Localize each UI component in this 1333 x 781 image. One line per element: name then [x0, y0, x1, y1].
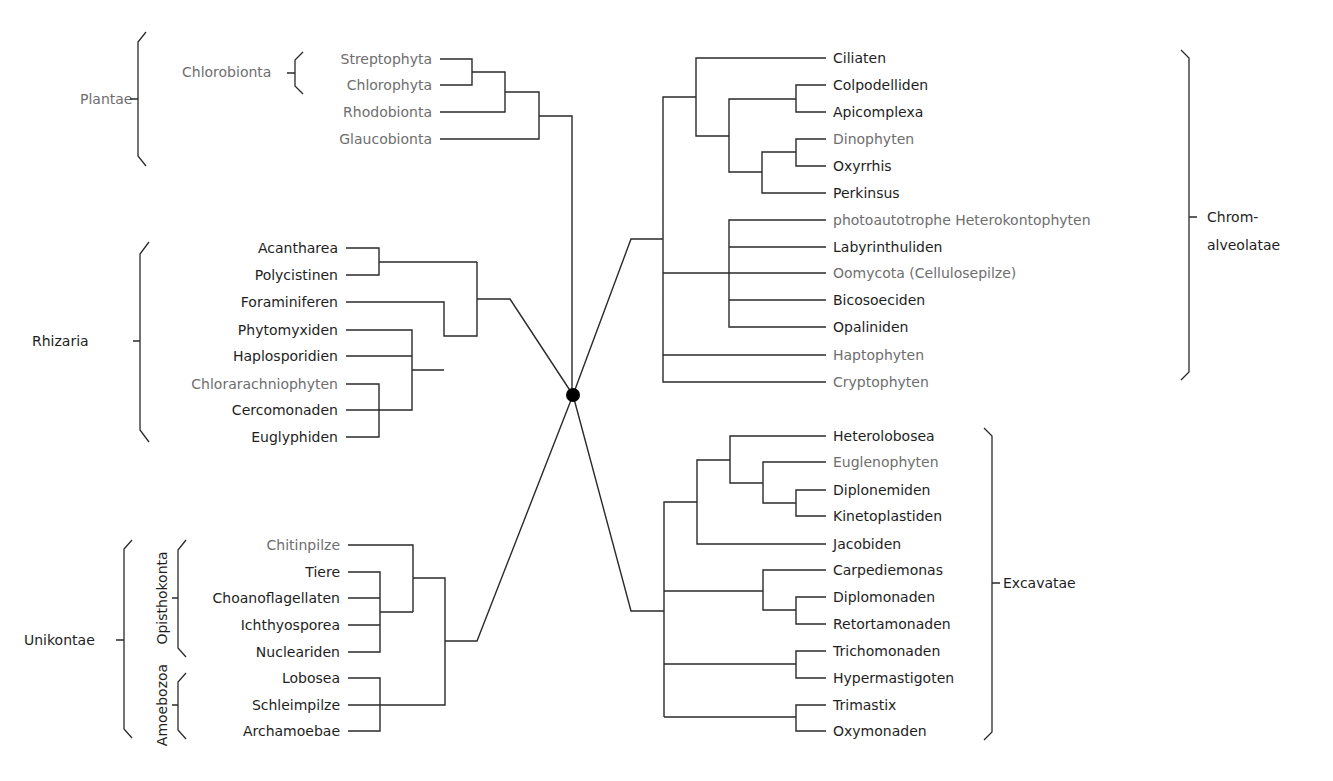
group-label-chromalveolatae-line2: alveolatae	[1207, 237, 1280, 253]
taxon-retortamonaden: Retortamonaden	[833, 616, 951, 632]
taxon-haplosporidien: Haplosporidien	[233, 348, 338, 364]
taxon-cercomonaden: Cercomonaden	[232, 402, 338, 418]
taxon-chlorophyta: Chlorophyta	[347, 77, 432, 93]
clade-rhizaria: Rhizaria Acantharea Polycistinen Foramin…	[32, 240, 573, 445]
taxon-ichthyosporea: Ichthyosporea	[241, 617, 340, 633]
taxon-heterolobosea: Heterolobosea	[833, 428, 935, 444]
taxon-schleimpilze: Schleimpilze	[252, 697, 340, 713]
taxon-polycistinen: Polycistinen	[255, 267, 338, 283]
taxon-ciliaten: Ciliaten	[833, 50, 886, 66]
taxon-jacobiden: Jacobiden	[832, 536, 901, 552]
taxon-streptophyta: Streptophyta	[341, 51, 433, 67]
taxon-dinophyten: Dinophyten	[833, 131, 914, 147]
group-label-plantae: Plantae	[80, 91, 132, 107]
taxon-perkinsus: Perkinsus	[833, 185, 900, 201]
brace-rhizaria	[133, 242, 149, 442]
clade-chromalveolatae: Ciliaten Colpodelliden Apicomplexa Dinop…	[573, 50, 1280, 395]
brace-plantae	[130, 32, 146, 166]
taxon-diplonemiden: Diplonemiden	[833, 482, 930, 498]
branches-chromalveolatae	[573, 58, 826, 395]
brace-unikontae	[116, 540, 132, 738]
taxon-nucleariden: Nucleariden	[256, 644, 340, 660]
group-label-amoebozoa: Amoebozoa	[154, 664, 170, 746]
group-label-chromalveolatae-line1: Chrom-	[1207, 209, 1258, 225]
brace-amoebozoa	[172, 673, 186, 739]
taxon-glaucobionta: Glaucobionta	[339, 131, 432, 147]
phylogenetic-tree: Plantae Chlorobionta Streptophyta Chloro…	[0, 0, 1333, 781]
taxon-opaliniden: Opaliniden	[833, 319, 908, 335]
taxon-oxymonaden: Oxymonaden	[833, 723, 927, 739]
root-node	[566, 388, 580, 402]
taxon-kinetoplastiden: Kinetoplastiden	[833, 508, 942, 524]
taxon-phytomyxiden: Phytomyxiden	[238, 322, 338, 338]
taxon-euglenophyten: Euglenophyten	[833, 454, 939, 470]
group-label-opisthokonta: Opisthokonta	[154, 551, 170, 644]
taxon-trichomonaden: Trichomonaden	[832, 643, 940, 659]
taxon-choanoflagellaten: Choanoflagellaten	[213, 590, 340, 606]
taxon-oomycota: Oomycota (Cellulosepilze)	[833, 265, 1016, 281]
branches-plantae	[440, 59, 572, 395]
taxon-carpediemonas: Carpediemonas	[833, 562, 943, 578]
branches-unikontae	[348, 395, 573, 731]
taxon-colpodelliden: Colpodelliden	[833, 77, 928, 93]
branches-excavatae	[573, 395, 826, 731]
taxon-apicomplexa: Apicomplexa	[833, 104, 923, 120]
brace-opisthokonta	[172, 540, 186, 657]
taxon-trimastix: Trimastix	[832, 697, 896, 713]
taxon-rhodobionta: Rhodobionta	[343, 104, 432, 120]
group-label-chlorobionta: Chlorobionta	[182, 64, 271, 80]
taxon-foraminiferen: Foraminiferen	[241, 294, 338, 310]
taxon-bicosoeciden: Bicosoeciden	[833, 292, 925, 308]
taxon-labyrinthuliden: Labyrinthuliden	[833, 239, 942, 255]
taxon-chlorarachniophyten: Chlorarachniophyten	[191, 376, 338, 392]
group-label-unikontae: Unikontae	[24, 632, 95, 648]
taxon-acantharea: Acantharea	[258, 240, 338, 256]
clade-plantae: Plantae Chlorobionta Streptophyta Chloro…	[80, 32, 572, 395]
taxon-archamoebae: Archamoebae	[243, 723, 340, 739]
taxon-cryptophyten: Cryptophyten	[833, 374, 929, 390]
taxon-tiere: Tiere	[304, 564, 340, 580]
taxon-oxyrrhis: Oxyrrhis	[833, 158, 892, 174]
taxon-hypermastigoten: Hypermastigoten	[833, 670, 954, 686]
branches-rhizaria	[346, 248, 573, 437]
group-label-excavatae: Excavatae	[1003, 575, 1076, 591]
clade-excavatae: Heterolobosea Euglenophyten Diplonemiden…	[573, 395, 1076, 740]
clade-unikontae: Unikontae Opisthokonta Amoebozoa Chitinp…	[24, 395, 573, 746]
group-label-rhizaria: Rhizaria	[32, 333, 89, 349]
taxon-euglyphiden: Euglyphiden	[251, 429, 338, 445]
taxon-chitinpilze: Chitinpilze	[267, 537, 340, 553]
taxon-diplomonaden: Diplomonaden	[833, 589, 935, 605]
taxon-lobosea: Lobosea	[282, 670, 340, 686]
brace-chlorobionta	[287, 52, 303, 94]
taxon-haptophyten: Haptophyten	[833, 347, 924, 363]
taxon-photoautotrophe-heterokontophyten: photoautotrophe Heterokontophyten	[833, 212, 1091, 228]
brace-excavatae	[984, 428, 1000, 740]
brace-chromalveolatae	[1181, 50, 1197, 380]
